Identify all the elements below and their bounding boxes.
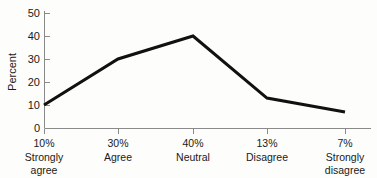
x-tick-percent-2: 40% <box>182 137 203 149</box>
y-tick-label-10: 10 <box>28 99 40 111</box>
chart-canvas: 50 40 30 20 10 0 Percent 10% 30% 40% 13%… <box>0 0 377 178</box>
x-category-0-line1: Strongly <box>25 151 64 163</box>
x-category-4-line2: disagree <box>325 164 365 176</box>
x-tick-percent-0: 10% <box>33 137 54 149</box>
x-category-2-line1: Neutral <box>176 151 210 163</box>
x-category-3-line1: Disagree <box>246 151 288 163</box>
y-axis-title: Percent <box>6 53 18 91</box>
x-category-1-line1: Agree <box>104 151 132 163</box>
y-tick-label-40: 40 <box>28 30 40 42</box>
x-tick-percent-1: 30% <box>107 137 128 149</box>
x-tick-percent-3: 13% <box>256 137 277 149</box>
line-chart-figure: 50 40 30 20 10 0 Percent 10% 30% 40% 13%… <box>0 0 377 178</box>
x-category-0-line2: agree <box>31 164 58 176</box>
y-tick-label-30: 30 <box>28 53 40 65</box>
y-tick-label-0: 0 <box>34 122 40 134</box>
x-category-4-line1: Strongly <box>326 151 365 163</box>
x-tick-percent-4: 7% <box>337 137 352 149</box>
y-tick-label-20: 20 <box>28 76 40 88</box>
y-tick-label-50: 50 <box>28 7 40 19</box>
